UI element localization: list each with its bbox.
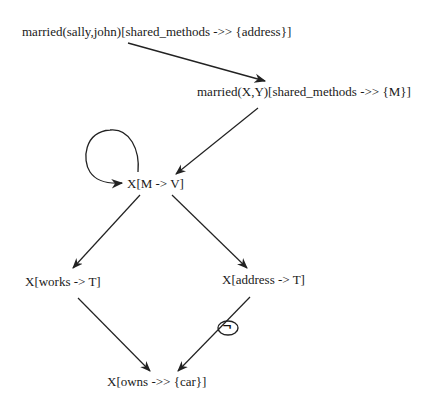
edge-n2-n3 [176,108,258,174]
negation-icon: ¬ [222,320,232,332]
node-married-sally-john: married(sally,john)[shared_methods ->> {… [22,25,291,38]
node-x-address-t: X[address -> T] [222,273,305,286]
node-x-m-v: X[M -> V] [127,177,184,190]
edge-n3-n5 [172,195,247,268]
edge-n1-n2 [128,43,265,81]
edge-n3-n4 [73,195,140,268]
edge-n4-n6 [78,298,150,371]
node-x-works-t: X[works -> T] [25,275,101,288]
derivation-graph-canvas: married(sally,john)[shared_methods ->> {… [0,0,422,403]
node-married-x-y: married(X,Y)[shared_methods ->> {M}] [197,85,411,98]
node-x-owns-car: X[owns ->> {car}] [107,375,206,388]
edge-n5-n6 [178,297,250,371]
graph-edges [0,0,422,403]
